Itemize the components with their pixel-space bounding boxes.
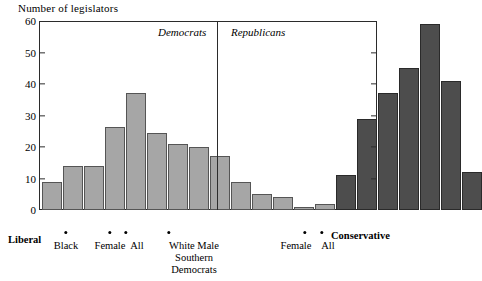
marker-dot-dem-female bbox=[108, 231, 111, 234]
bar-democrat bbox=[42, 182, 62, 210]
republicans-label: Republicans bbox=[231, 26, 285, 38]
bar-democrat bbox=[126, 93, 146, 210]
y-tick-mark-right bbox=[371, 52, 377, 53]
bar-republican bbox=[378, 93, 398, 210]
bar-democrat bbox=[147, 133, 167, 210]
bar-democrat bbox=[189, 147, 209, 210]
bar-republican bbox=[462, 172, 482, 210]
rep-all-label: All bbox=[321, 240, 334, 252]
bar-democrat bbox=[252, 194, 272, 210]
y-tick-mark bbox=[39, 146, 45, 147]
bar-democrat bbox=[315, 204, 335, 210]
bar-democrat bbox=[294, 207, 314, 210]
bar-republican bbox=[441, 81, 461, 210]
y-tick-mark-right bbox=[371, 178, 377, 179]
bar-democrat bbox=[273, 197, 293, 210]
y-tick-mark bbox=[39, 83, 45, 84]
bar-democrat bbox=[210, 156, 230, 210]
bar-democrat bbox=[84, 166, 104, 210]
y-tick-label: 10 bbox=[12, 173, 36, 184]
dem-all-label: All bbox=[130, 240, 143, 252]
rep-female-label: Female bbox=[281, 240, 312, 252]
y-tick-label: 40 bbox=[12, 79, 36, 90]
liberal-label: Liberal bbox=[8, 234, 41, 246]
bar-republican bbox=[399, 68, 419, 210]
white-male-label: White Male bbox=[169, 240, 219, 252]
marker-dot-white-male-southern bbox=[167, 231, 170, 234]
y-tick-label: 30 bbox=[12, 110, 36, 121]
y-tick-mark-right bbox=[371, 146, 377, 147]
y-tick-mark bbox=[39, 178, 45, 179]
marker-dot-rep-female bbox=[303, 231, 306, 234]
bars-container bbox=[39, 21, 377, 210]
marker-dot-rep-all bbox=[320, 231, 323, 234]
y-tick-label: 60 bbox=[12, 16, 36, 27]
marker-dot-dem-all bbox=[124, 231, 127, 234]
y-tick-mark bbox=[39, 115, 45, 116]
party-divider bbox=[217, 21, 218, 210]
bar-democrat bbox=[105, 127, 125, 210]
bar-republican bbox=[420, 24, 440, 210]
y-tick-label: 20 bbox=[12, 142, 36, 153]
bar-democrat bbox=[168, 144, 188, 210]
bar-republican bbox=[357, 119, 377, 210]
dem-female-label: Female bbox=[95, 240, 126, 252]
democrats-label: Democrats bbox=[158, 26, 206, 38]
y-tick-mark-right bbox=[371, 115, 377, 116]
y-tick-label: 0 bbox=[12, 205, 36, 216]
black-label: Black bbox=[54, 240, 79, 252]
y-tick-mark-right bbox=[371, 83, 377, 84]
southern-label: Southern bbox=[175, 252, 213, 264]
southern-democrats-label: Democrats bbox=[171, 264, 216, 276]
bar-democrat bbox=[231, 182, 251, 210]
bar-democrat bbox=[63, 166, 83, 210]
bar-republican bbox=[336, 175, 356, 210]
conservative-label: Conservative bbox=[331, 230, 390, 242]
marker-dot-black bbox=[64, 231, 67, 234]
y-tick-label: 50 bbox=[12, 47, 36, 58]
y-tick-mark bbox=[39, 52, 45, 53]
